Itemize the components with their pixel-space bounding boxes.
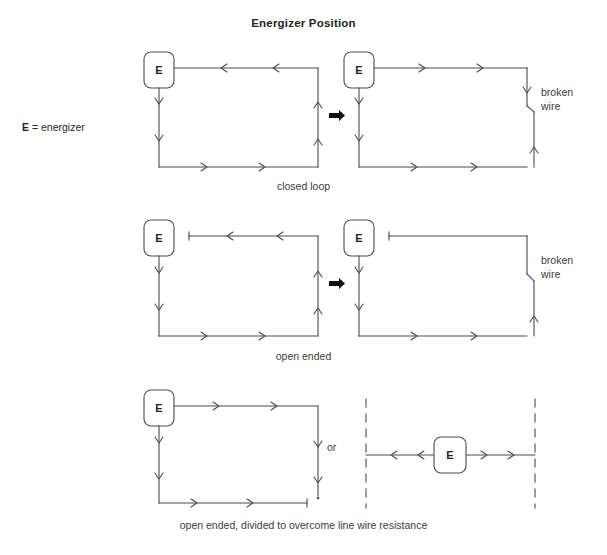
energizer-label: E <box>355 64 362 76</box>
circuit-diagrams-svg: E E <box>0 0 607 555</box>
broken-wire-gap-row1 <box>527 106 534 112</box>
transition-arrow-row1 <box>329 110 345 121</box>
circuit-divided-center-fed: E <box>366 399 535 508</box>
circuit-open-ended-intact: E <box>144 220 322 340</box>
circuit-open-ended-broken: E <box>344 220 538 340</box>
broken-wire-gap-row2 <box>527 274 534 281</box>
terminal-dot-row3-left <box>317 497 320 500</box>
energizer-label: E <box>155 64 162 76</box>
circuit-closed-loop-intact: E <box>144 52 322 171</box>
energizer-label: E <box>155 232 162 244</box>
circuit-closed-loop-broken: E <box>344 52 538 171</box>
energizer-label: E <box>446 449 453 461</box>
circuit-divided-c-shape: E <box>144 390 322 507</box>
energizer-label: E <box>155 402 162 414</box>
energizer-label: E <box>355 232 362 244</box>
diagram-canvas: Energizer Position E = energizer closed … <box>0 0 607 555</box>
transition-arrow-row2 <box>329 278 345 289</box>
